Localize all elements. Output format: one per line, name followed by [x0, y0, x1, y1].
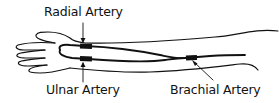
brachial-marker [186, 58, 197, 59]
radial-artery-label: Radial Artery [44, 4, 123, 19]
arm-artery-diagram: Radial Artery Ulnar Artery Brachial Arte… [0, 0, 279, 103]
radial-marker [80, 46, 92, 47]
ulnar-arrowhead-icon [81, 62, 86, 67]
ulnar-artery-label: Ulnar Artery [46, 82, 120, 97]
pulse-markers [80, 46, 197, 59]
brachial-leader [194, 62, 213, 80]
hand-outline [16, 30, 278, 73]
brachial-artery-label: Brachial Artery [170, 82, 261, 97]
ulnar-marker [80, 59, 92, 60]
